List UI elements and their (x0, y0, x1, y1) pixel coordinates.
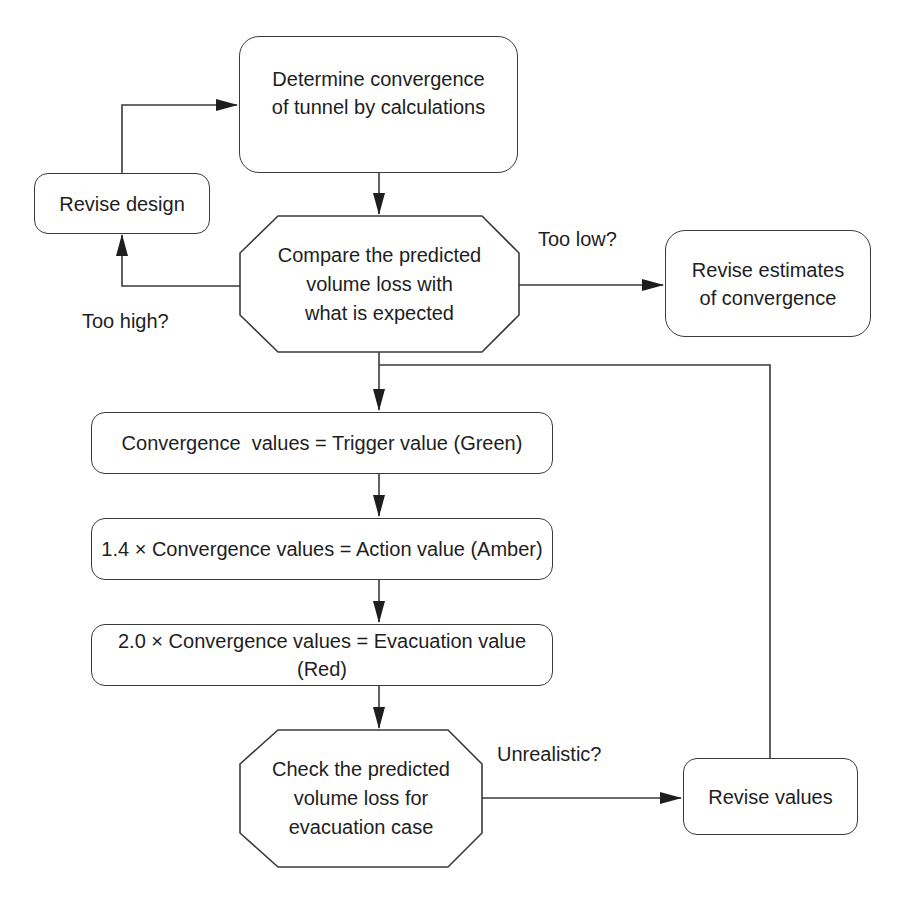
determine-convergence-text: Determine convergence of tunnel by calcu… (272, 65, 485, 121)
evacuation-value-text: 2.0 × Convergence values = Evacuation va… (92, 627, 552, 683)
revise-estimates-box: Revise estimates of convergence (665, 230, 871, 337)
revise-estimates-text: Revise estimates of convergence (692, 256, 844, 312)
revise-design-text: Revise design (59, 190, 185, 218)
trigger-value-text: Convergence values = Trigger value (Gree… (122, 429, 523, 457)
check-evacuation-text: Check the predicted volume loss for evac… (272, 755, 450, 842)
action-value-box: 1.4 × Convergence values = Action value … (91, 518, 553, 580)
too-low-label: Too low? (538, 227, 617, 251)
too-high-label: Too high? (82, 309, 169, 333)
compare-volume-loss-text: Compare the predicted volume loss with w… (278, 241, 481, 328)
unrealistic-label: Unrealistic? (497, 742, 601, 766)
action-value-text: 1.4 × Convergence values = Action value … (101, 535, 542, 563)
revise-values-text: Revise values (708, 783, 833, 811)
determine-convergence-box: Determine convergence of tunnel by calcu… (239, 36, 518, 173)
compare-volume-loss-decision: Compare the predicted volume loss with w… (240, 216, 519, 352)
evacuation-value-box: 2.0 × Convergence values = Evacuation va… (91, 624, 553, 686)
trigger-value-box: Convergence values = Trigger value (Gree… (91, 412, 553, 474)
check-evacuation-decision: Check the predicted volume loss for evac… (240, 730, 482, 867)
revise-design-box: Revise design (34, 173, 210, 234)
revise-values-box: Revise values (683, 758, 858, 835)
